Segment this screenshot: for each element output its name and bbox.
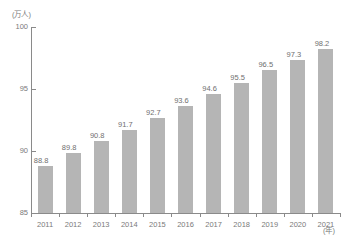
bar <box>178 106 193 213</box>
bar-value-label: 94.6 <box>195 84 224 93</box>
x-axis-tick-label: 2017 <box>200 220 228 229</box>
x-axis-line <box>31 213 340 214</box>
bar <box>38 166 53 213</box>
x-axis-tick-label: 2019 <box>256 220 284 229</box>
x-axis-tick-label: 2021 <box>312 220 340 229</box>
x-axis-tick-mark <box>115 213 116 217</box>
x-axis-tick-mark <box>59 213 60 217</box>
x-axis-tick-label: 2015 <box>143 220 171 229</box>
bar-value-label: 92.7 <box>139 108 168 117</box>
y-axis-tick-label: 85 <box>20 208 28 217</box>
bar-value-label: 91.7 <box>111 120 140 129</box>
x-axis-tick-mark <box>87 213 88 217</box>
x-axis-tick-mark <box>171 213 172 217</box>
bar <box>290 60 305 213</box>
bar-value-label: 97.3 <box>279 50 308 59</box>
bar <box>150 118 165 213</box>
bar <box>122 130 137 213</box>
x-axis-tick-mark <box>256 213 257 217</box>
x-axis-tick-label: 2011 <box>31 220 59 229</box>
bar-value-label: 98.2 <box>307 39 336 48</box>
x-axis-tick-mark <box>31 213 32 217</box>
bar <box>318 49 333 213</box>
bar <box>206 94 221 213</box>
bar-value-label: 93.6 <box>167 96 196 105</box>
bar-value-label: 90.8 <box>83 131 112 140</box>
x-axis-tick-label: 2020 <box>284 220 312 229</box>
x-axis-tick-label: 2016 <box>171 220 199 229</box>
x-axis-tick-mark <box>200 213 201 217</box>
bar-value-label: 95.5 <box>223 73 252 82</box>
x-axis-tick-label: 2018 <box>228 220 256 229</box>
x-axis-tick-label: 2014 <box>115 220 143 229</box>
y-axis-unit-label: (万人) <box>12 8 31 19</box>
x-axis-tick-mark <box>143 213 144 217</box>
bar <box>234 83 249 213</box>
bar-value-label: 89.8 <box>55 143 84 152</box>
y-axis-tick-label: 90 <box>20 146 28 155</box>
x-axis-tick-label: 2013 <box>87 220 115 229</box>
bar-chart: (万人) (年) 859095100 88.889.890.891.792.79… <box>0 0 348 243</box>
x-axis-tick-mark <box>284 213 285 217</box>
x-axis-tick-mark <box>312 213 313 217</box>
y-axis-tick-label: 95 <box>20 84 28 93</box>
x-axis-tick-label: 2012 <box>59 220 87 229</box>
bar <box>262 70 277 213</box>
bar <box>66 153 81 213</box>
x-axis-tick-mark <box>228 213 229 217</box>
bar-value-label: 88.8 <box>27 156 56 165</box>
y-axis-tick-label: 100 <box>15 22 28 31</box>
bar-value-label: 96.5 <box>251 60 280 69</box>
bar <box>94 141 109 213</box>
plot-area: 88.889.890.891.792.793.694.695.596.597.3… <box>31 27 340 213</box>
x-axis-tick-mark <box>340 213 341 217</box>
